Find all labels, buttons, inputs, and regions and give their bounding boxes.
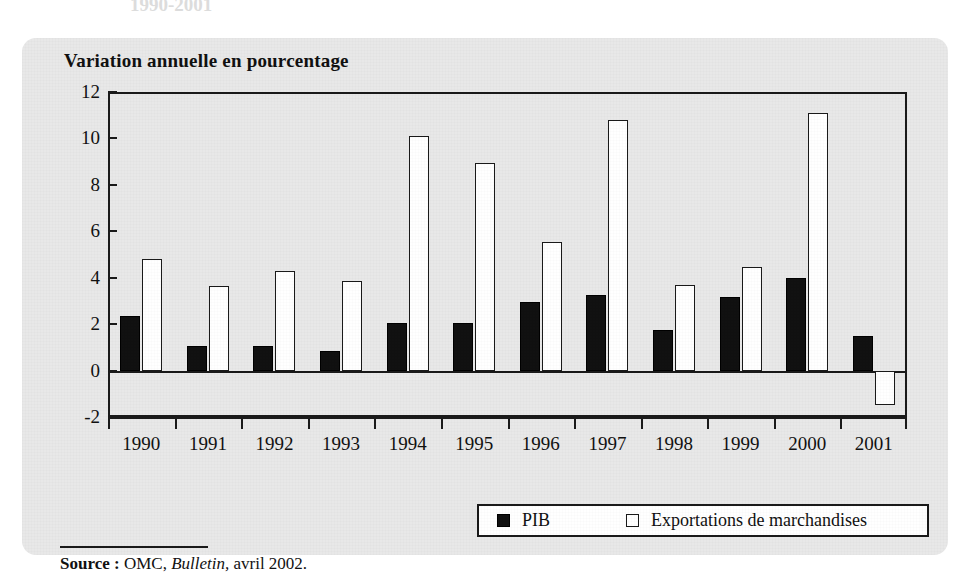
legend-label-exports: Exportations de marchandises — [651, 510, 867, 531]
bar-group — [774, 92, 841, 417]
y-tick-label: 2 — [62, 313, 100, 335]
bar-exports — [542, 242, 562, 371]
x-tick-label: 1990 — [106, 433, 176, 455]
bar-pib — [187, 346, 207, 370]
plot-area: -2024681012 — [108, 92, 907, 417]
bar-group — [374, 92, 441, 417]
bar-exports — [675, 285, 695, 371]
x-tick-mark — [374, 419, 376, 429]
figure-root: 1990-2001 Variation annuelle en pourcent… — [0, 0, 973, 580]
x-tick-mark — [905, 419, 907, 429]
x-tick-mark — [774, 419, 776, 429]
bar-pib — [253, 346, 273, 370]
source-publication: Bulletin, — [171, 554, 229, 573]
bar-exports — [142, 259, 162, 370]
bar-group — [175, 92, 242, 417]
x-tick-mark — [840, 419, 842, 429]
x-tick-mark — [441, 419, 443, 429]
x-tick-label: 2001 — [839, 433, 909, 455]
bar-group — [574, 92, 641, 417]
bar-exports — [608, 120, 628, 371]
bar-pib — [586, 295, 606, 370]
bar-pib — [786, 278, 806, 371]
x-tick-label: 1991 — [173, 433, 243, 455]
bar-pib — [320, 351, 340, 371]
x-tick-mark — [641, 419, 643, 429]
x-tick-mark — [175, 419, 177, 429]
source-date: avril 2002. — [233, 554, 307, 573]
y-tick-label: 10 — [62, 127, 100, 149]
source-note: Source : OMC, Bulletin, avril 2002. — [60, 554, 307, 574]
x-tick-label: 1996 — [506, 433, 576, 455]
source-organization: OMC, — [124, 554, 167, 573]
legend-item-pib: PIB — [497, 510, 550, 531]
source-label: Source : — [60, 554, 120, 573]
bar-pib — [853, 336, 873, 371]
x-tick-label: 1994 — [373, 433, 443, 455]
x-tick-mark — [508, 419, 510, 429]
figure-panel: Variation annuelle en pourcentage -20246… — [22, 38, 948, 555]
bar-pib — [453, 323, 473, 371]
source-rule — [60, 546, 208, 548]
legend-label-pib: PIB — [522, 510, 550, 531]
bar-exports — [808, 113, 828, 371]
bar-pib — [720, 297, 740, 370]
bar-pib — [120, 316, 140, 371]
bar-exports — [742, 267, 762, 370]
cut-off-heading: 1990-2001 — [130, 0, 430, 16]
x-tick-mark — [108, 419, 110, 429]
x-tick-mark — [574, 419, 576, 429]
bar-exports — [475, 163, 495, 371]
legend-swatch-pib-icon — [497, 514, 510, 527]
bar-group — [840, 92, 907, 417]
bar-group — [707, 92, 774, 417]
bar-pib — [387, 323, 407, 371]
bar-exports — [209, 286, 229, 371]
bar-pib — [653, 330, 673, 371]
y-tick-label: 12 — [62, 81, 100, 103]
bar-group — [108, 92, 175, 417]
bar-exports — [275, 271, 295, 371]
y-tick-label: 8 — [62, 174, 100, 196]
x-tick-label: 1993 — [306, 433, 376, 455]
x-tick-label: 1998 — [639, 433, 709, 455]
y-tick-label: -2 — [62, 406, 100, 428]
x-tick-label: 1992 — [239, 433, 309, 455]
x-axis: 1990199119921993199419951996199719981999… — [108, 417, 907, 419]
bar-group — [508, 92, 575, 417]
x-tick-label: 1995 — [439, 433, 509, 455]
bar-group — [441, 92, 508, 417]
x-tick-label: 1999 — [706, 433, 776, 455]
chart-title: Variation annuelle en pourcentage — [64, 50, 349, 72]
y-tick-label: 0 — [62, 360, 100, 382]
bar-exports — [342, 281, 362, 370]
x-tick-mark — [241, 419, 243, 429]
legend-item-exports: Exportations de marchandises — [626, 510, 867, 531]
bar-exports — [875, 371, 895, 406]
y-tick-label: 6 — [62, 220, 100, 242]
x-tick-label: 1997 — [572, 433, 642, 455]
x-tick-label: 2000 — [772, 433, 842, 455]
bar-series-group — [108, 92, 907, 417]
bar-group — [241, 92, 308, 417]
bar-pib — [520, 302, 540, 370]
x-tick-mark — [308, 419, 310, 429]
chart-legend: PIB Exportations de marchandises — [477, 504, 929, 537]
bar-group — [308, 92, 375, 417]
y-tick-label: 4 — [62, 267, 100, 289]
bar-exports — [409, 136, 429, 370]
bar-group — [641, 92, 708, 417]
x-tick-mark — [707, 419, 709, 429]
legend-swatch-exports-icon — [626, 514, 639, 527]
